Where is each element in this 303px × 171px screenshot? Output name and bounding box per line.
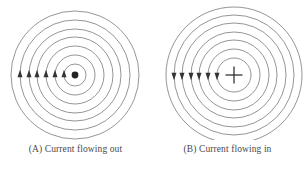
current-in-cross-icon xyxy=(226,67,243,84)
field-direction-arrows-a xyxy=(18,70,67,78)
field-direction-arrow-down-icon-4 xyxy=(189,73,194,81)
current-out-dot xyxy=(72,72,79,79)
field-diagram-a xyxy=(0,0,151,140)
field-direction-arrow-up-icon-5 xyxy=(27,70,32,78)
field-direction-arrow-down-icon-1 xyxy=(215,73,220,81)
field-direction-arrow-down-icon-3 xyxy=(197,73,202,81)
field-diagram-b xyxy=(152,0,303,140)
panel-current-flowing-out: (A) Current flowing out xyxy=(0,0,151,171)
field-direction-arrow-down-icon-2 xyxy=(206,73,211,81)
field-direction-arrow-down-icon-6 xyxy=(172,73,177,81)
field-direction-arrow-up-icon-4 xyxy=(35,70,40,78)
field-direction-arrow-up-icon-3 xyxy=(44,70,49,78)
current-out-dot-icon xyxy=(72,72,79,79)
field-direction-arrow-down-icon-5 xyxy=(180,73,185,81)
field-direction-arrow-up-icon-2 xyxy=(53,70,58,78)
panel-b-caption: (B) Current flowing in xyxy=(152,142,303,156)
panel-a-caption: (A) Current flowing out xyxy=(0,142,151,156)
field-direction-arrows-b xyxy=(172,73,220,81)
field-direction-arrow-up-icon-6 xyxy=(18,70,23,78)
magnetic-field-figure: (A) Current flowing out (B) Current flow… xyxy=(0,0,303,171)
panel-current-flowing-in: (B) Current flowing in xyxy=(152,0,303,171)
field-direction-arrow-up-icon-1 xyxy=(62,70,67,78)
